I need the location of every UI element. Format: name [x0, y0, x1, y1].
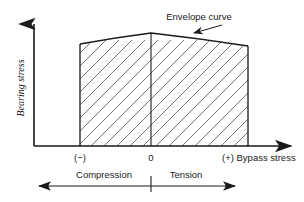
hatched-region — [0, 30, 304, 160]
envelope-callout-arrow — [194, 25, 222, 33]
x-axis-label: (+) Bypass stress — [222, 152, 296, 163]
bearing-bypass-diagram: Envelope curve Bearing stress (−) 0 (+) … — [0, 0, 304, 202]
y-axis-label: Bearing stress — [15, 59, 26, 116]
x-tick-label-zero: 0 — [148, 152, 153, 163]
envelope-curve-label: Envelope curve — [166, 11, 231, 22]
tension-label: Tension — [170, 169, 203, 180]
x-tick-label-negative: (−) — [74, 152, 86, 163]
figure-canvas: Envelope curve Bearing stress (−) 0 (+) … — [0, 0, 304, 202]
compression-label: Compression — [76, 169, 132, 180]
